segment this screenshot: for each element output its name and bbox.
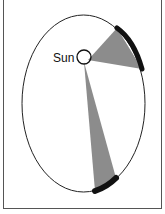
sector-far-from-sun <box>84 62 116 191</box>
sun-label: Sun <box>53 51 74 65</box>
kepler-diagram: Sun <box>0 0 165 214</box>
sun-icon <box>77 50 91 64</box>
orbit-ellipse <box>22 15 145 192</box>
